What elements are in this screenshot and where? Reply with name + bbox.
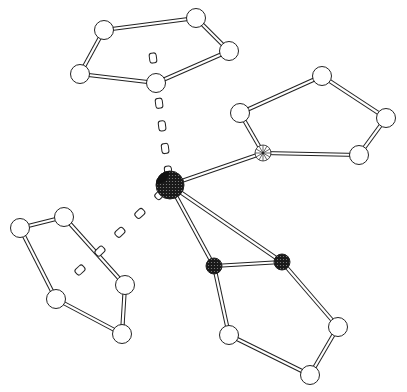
atoms-layer [11,9,396,385]
ring-top-bond [104,18,196,30]
metal-atom [156,171,184,199]
carbon-atom [11,219,30,238]
carbon-atom [147,74,166,93]
metal-dashed-bond [74,189,166,276]
carbon-atom [231,104,250,123]
carbon-atom [95,21,114,40]
carbon-atom [220,326,239,345]
carbon-atom [313,67,332,86]
metal-bond [170,185,282,262]
ring-top-bond [156,51,229,83]
carbon-atom [116,276,135,295]
molecular-diagram [0,0,407,392]
dark-atom [274,254,290,270]
ring-bottom-bond [214,262,282,266]
ring-right-bond [240,76,322,113]
carbon-atom [220,42,239,61]
ring-left-bond [64,217,125,285]
carbon-atom [301,366,320,385]
ring-right-bond [322,76,386,118]
metal-dashed-bond [149,53,172,177]
carbon-atom [187,9,206,28]
ring-bottom-bond [229,335,310,375]
carbon-atom [55,208,74,227]
hatched-atom [255,145,271,161]
carbon-atom [71,65,90,84]
ring-bottom-bond [282,262,338,327]
dark-atom [206,258,222,274]
carbon-atom [329,318,348,337]
metal-bond [170,153,263,185]
ring-bottom-bond [214,266,229,335]
ring-top-bond [80,74,156,83]
ring-left-bond [20,228,56,299]
ring-left-bond [56,299,122,334]
carbon-atom [113,325,132,344]
carbon-atom [350,146,369,165]
carbon-atom [47,290,66,309]
carbon-atom [377,109,396,128]
ring-right-bond [263,153,359,155]
